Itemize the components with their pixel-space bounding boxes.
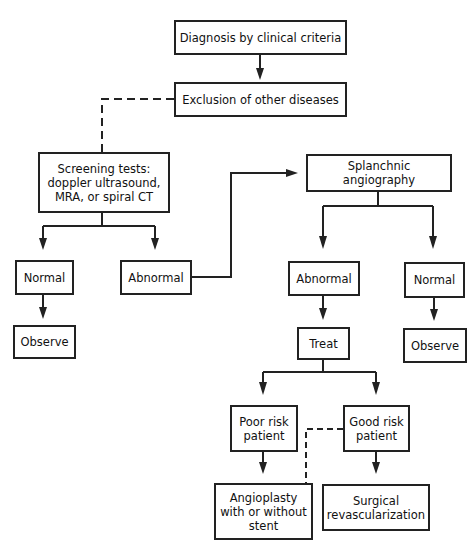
node-exclusion: Exclusion of other diseases — [174, 82, 347, 117]
node-label: Normal — [24, 271, 66, 285]
edge-abnormal-angiography — [192, 173, 288, 277]
node-label: Observe — [411, 339, 459, 353]
node-label: Poor risk patient — [239, 415, 289, 443]
node-screen-observe: Observe — [13, 325, 76, 359]
node-label: Splanchnic angiography — [311, 159, 447, 187]
node-angiography: Splanchnic angiography — [306, 154, 452, 192]
node-label: Good risk patient — [349, 415, 404, 443]
node-screen-normal: Normal — [15, 260, 74, 295]
node-label: Diagnosis by clinical criteria — [180, 31, 342, 45]
node-angio-observe: Observe — [403, 328, 467, 363]
node-diagnosis: Diagnosis by clinical criteria — [174, 20, 347, 55]
node-label: Normal — [414, 273, 456, 287]
node-screen-abnormal: Abnormal — [120, 260, 192, 295]
node-label: Angioplasty with or without stent — [220, 491, 307, 533]
node-angio-abnormal: Abnormal — [288, 261, 360, 296]
node-screening: Screening tests: doppler ultrasound, MRA… — [38, 152, 170, 213]
node-angioplasty: Angioplasty with or without stent — [214, 483, 313, 540]
node-label: Surgical revascularization — [327, 494, 425, 522]
node-label: Treat — [309, 337, 337, 351]
edge-exclusion-screening — [102, 99, 174, 152]
node-angio-normal: Normal — [404, 262, 465, 298]
node-label: Screening tests: doppler ultrasound, MRA… — [48, 162, 161, 204]
node-label: Observe — [20, 335, 68, 349]
node-label: Abnormal — [296, 272, 351, 286]
node-label: Abnormal — [128, 271, 183, 285]
node-treat: Treat — [297, 327, 350, 360]
edge-goodrisk-angioplasty — [306, 429, 343, 483]
node-good-risk: Good risk patient — [343, 405, 410, 452]
node-poor-risk: Poor risk patient — [230, 405, 298, 452]
node-label: Exclusion of other diseases — [182, 93, 339, 107]
node-surgical: Surgical revascularization — [322, 484, 430, 531]
